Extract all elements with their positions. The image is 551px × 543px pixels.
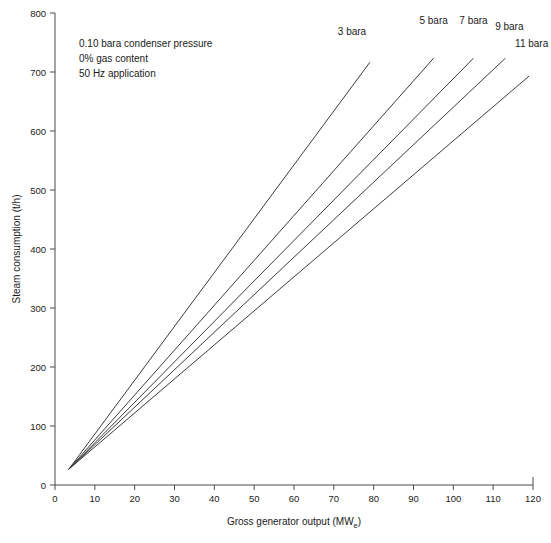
x-axis-title-main: Gross generator output (MW: [227, 516, 354, 527]
y-tick-label: 200: [30, 362, 46, 373]
y-tick-label: 0: [41, 480, 46, 491]
y-tick-label: 300: [30, 303, 46, 314]
y-tick-label: 600: [30, 126, 46, 137]
x-tick-label: 50: [249, 493, 260, 504]
x-axis-title-close: ): [358, 516, 361, 527]
x-tick-label: 0: [52, 493, 57, 504]
y-axis-title: Steam consumption (t/h): [11, 195, 22, 304]
x-tick-label: 70: [329, 493, 340, 504]
annotation-line: 0.10 bara condenser pressure: [79, 38, 213, 49]
x-tick-label: 80: [368, 493, 379, 504]
series-label-7-bara: 7 bara: [459, 15, 488, 26]
x-tick-label: 90: [408, 493, 419, 504]
x-tick-label: 30: [169, 493, 180, 504]
x-tick-label: 120: [525, 493, 541, 504]
x-tick-label: 100: [445, 493, 461, 504]
x-tick-label: 60: [289, 493, 300, 504]
series-label-9-bara: 9 bara: [495, 21, 524, 32]
series-label-5-bara: 5 bara: [419, 15, 448, 26]
annotation-line: 0% gas content: [79, 53, 148, 64]
y-tick-label: 700: [30, 67, 46, 78]
series-label-11-bara: 11 bara: [515, 38, 549, 49]
x-tick-label: 10: [90, 493, 101, 504]
x-tick-label: 110: [486, 493, 501, 504]
y-tick-label: 500: [30, 185, 46, 196]
annotation-line: 50 Hz application: [79, 68, 156, 79]
x-tick-label: 20: [129, 493, 140, 504]
steam-consumption-chart: 0100200300400500600700800 01020304050607…: [0, 0, 551, 543]
chart-background: [0, 0, 551, 543]
chart-figure: 0100200300400500600700800 01020304050607…: [0, 0, 551, 543]
x-tick-label: 40: [209, 493, 220, 504]
y-tick-label: 400: [30, 244, 46, 255]
series-label-3-bara: 3 bara: [338, 26, 367, 37]
y-tick-label: 800: [30, 8, 46, 19]
y-tick-label: 100: [30, 421, 46, 432]
